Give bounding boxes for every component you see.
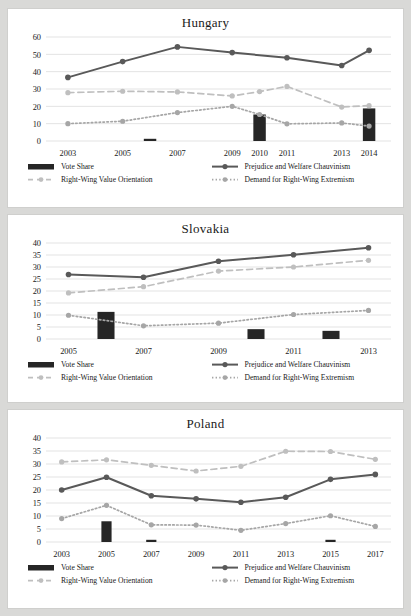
y-axis-tick-label: 10 — [33, 120, 41, 129]
chart-title-slovakia: Slovakia — [8, 215, 403, 237]
legend-item-value-orientation[interactable]: Right-Wing Value Orientation — [26, 575, 210, 586]
y-axis-tick-label: 25 — [33, 473, 41, 482]
data-point-marker — [104, 457, 109, 462]
data-point-marker — [148, 493, 154, 499]
vote-share-bar — [325, 540, 335, 542]
data-point-marker — [216, 268, 221, 273]
x-axis-tick-label: 2005 — [114, 149, 131, 158]
data-point-marker — [257, 89, 262, 94]
data-point-marker — [238, 528, 243, 533]
y-axis-tick-label: 20 — [33, 486, 41, 495]
legend-item-value-orientation[interactable]: Right-Wing Value Orientation — [26, 372, 210, 383]
x-axis-tick-label: 2013 — [360, 347, 377, 356]
legend-label-vote-share: Vote Share — [61, 161, 94, 172]
legend-item-extremism[interactable]: Demand for Right-Wing Extremism — [210, 174, 394, 185]
data-point-marker — [339, 63, 345, 69]
data-point-marker — [339, 104, 344, 109]
legend-item-prejudice[interactable]: Prejudice and Welfare Chauvinism — [210, 359, 394, 370]
legend-item-prejudice[interactable]: Prejudice and Welfare Chauvinism — [210, 161, 394, 172]
value-orientation-swatch-icon — [26, 373, 56, 382]
y-axis-tick-label: 20 — [33, 287, 41, 296]
legend-slovakia: Vote Share Prejudice and Welfare Chauvin… — [26, 359, 393, 383]
value-orientation-swatch-icon — [26, 175, 56, 184]
data-point-marker — [339, 120, 344, 125]
data-point-marker — [238, 499, 244, 505]
y-axis-tick-label: 20 — [33, 103, 41, 112]
y-axis-tick-label: 40 — [33, 434, 41, 443]
data-point-marker — [291, 312, 296, 317]
legend-item-extremism[interactable]: Demand for Right-Wing Extremism — [210, 372, 394, 383]
data-point-marker — [328, 477, 334, 483]
x-axis-tick-label: 2007 — [135, 347, 152, 356]
data-point-marker — [175, 44, 181, 50]
x-axis-tick-label: 2005 — [60, 347, 77, 356]
prejudice-swatch-icon — [210, 360, 240, 369]
data-point-marker — [65, 90, 70, 95]
data-point-marker — [328, 513, 333, 518]
legend-label-extremism: Demand for Right-Wing Extremism — [245, 174, 355, 185]
data-point-marker — [66, 313, 71, 318]
data-point-marker — [366, 103, 371, 108]
x-axis-tick-label: 2011 — [285, 347, 301, 356]
prejudice-swatch-icon — [210, 563, 240, 572]
legend-label-extremism: Demand for Right-Wing Extremism — [245, 372, 355, 383]
data-point-marker — [193, 468, 198, 473]
legend-label-vote-share: Vote Share — [61, 562, 94, 573]
data-point-marker — [283, 449, 288, 454]
legend-item-extremism[interactable]: Demand for Right-Wing Extremism — [210, 575, 394, 586]
y-axis-tick-label: 10 — [33, 311, 41, 320]
data-point-marker — [216, 321, 221, 326]
data-point-marker — [291, 264, 296, 269]
x-axis-tick-label: 2013 — [277, 550, 294, 559]
data-point-marker — [175, 89, 180, 94]
plot-area-poland: 0510152025303540200320052007200920112013… — [12, 432, 395, 562]
figure-page: Hungary 01020304050602003200520072009201… — [0, 0, 411, 616]
legend-item-vote-share[interactable]: Vote Share — [26, 161, 210, 172]
extremism-swatch-icon — [210, 576, 240, 585]
data-point-marker — [141, 323, 146, 328]
x-axis-tick-label: 2005 — [98, 550, 115, 559]
data-point-marker — [366, 123, 371, 128]
chart-panel-poland: Poland 051015202530354020032005200720092… — [7, 409, 404, 609]
legend-item-prejudice[interactable]: Prejudice and Welfare Chauvinism — [210, 562, 394, 573]
y-axis-tick-label: 35 — [33, 251, 41, 260]
value-orientation-swatch-icon — [26, 576, 56, 585]
y-axis-tick-label: 30 — [33, 263, 41, 272]
legend-item-value-orientation[interactable]: Right-Wing Value Orientation — [26, 174, 210, 185]
x-axis-tick-label: 2011 — [233, 550, 249, 559]
y-axis-tick-label: 15 — [33, 299, 41, 308]
y-axis-tick-label: 5 — [37, 525, 41, 534]
vote-share-bar — [322, 331, 339, 339]
data-point-marker — [283, 494, 289, 500]
data-point-marker — [366, 48, 372, 54]
y-axis-tick-label: 30 — [33, 460, 41, 469]
y-axis-tick-label: 40 — [33, 68, 41, 77]
y-axis-tick-label: 40 — [33, 239, 41, 248]
legend-label-prejudice: Prejudice and Welfare Chauvinism — [245, 359, 351, 370]
x-axis-tick-label: 2013 — [333, 149, 350, 158]
extremism-swatch-icon — [210, 175, 240, 184]
legend-item-vote-share[interactable]: Vote Share — [26, 359, 210, 370]
y-axis-tick-label: 10 — [33, 512, 41, 521]
data-point-marker — [149, 522, 154, 527]
data-point-marker — [66, 272, 72, 278]
legend-label-value-orientation: Right-Wing Value Orientation — [61, 575, 153, 586]
legend-hungary: Vote Share Prejudice and Welfare Chauvin… — [26, 161, 393, 185]
extremism-swatch-icon — [210, 373, 240, 382]
data-point-marker — [141, 284, 146, 289]
legend-item-vote-share[interactable]: Vote Share — [26, 562, 210, 573]
prejudice-swatch-icon — [210, 162, 240, 171]
vote-share-bar — [146, 540, 156, 542]
chart-panel-slovakia: Slovakia 0510152025303540200520072009201… — [7, 214, 404, 403]
plot-area-hungary: 0102030405060200320052007200920102011201… — [12, 31, 395, 161]
x-axis-tick-label: 2017 — [367, 550, 384, 559]
x-axis-tick-label: 2007 — [169, 149, 186, 158]
chart-svg-hungary: 0102030405060200320052007200920102011201… — [12, 31, 397, 161]
x-axis-tick-label: 2003 — [53, 550, 70, 559]
x-axis-tick-label: 2014 — [361, 149, 379, 158]
data-point-marker — [141, 275, 147, 281]
legend-poland: Vote Share Prejudice and Welfare Chauvin… — [26, 562, 393, 586]
chart-panel-hungary: Hungary 01020304050602003200520072009201… — [7, 8, 404, 208]
data-point-marker — [284, 55, 290, 61]
legend-label-prejudice: Prejudice and Welfare Chauvinism — [245, 562, 351, 573]
